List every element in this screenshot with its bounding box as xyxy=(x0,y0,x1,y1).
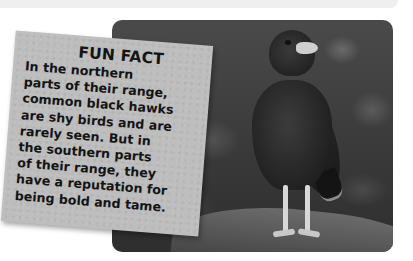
top-band xyxy=(0,0,398,8)
fun-fact-text: In the northern parts of their range, co… xyxy=(14,58,205,218)
hawk-leg-right xyxy=(305,185,310,233)
hawk-body-shape xyxy=(252,80,332,190)
branch-shape xyxy=(169,197,393,252)
hawk-eye-shape xyxy=(285,40,291,45)
fun-fact-card: FUN FACT In the northern parts of their … xyxy=(1,31,213,237)
hawk-leg-left xyxy=(283,185,288,233)
hawk-beak-shape xyxy=(296,42,318,54)
